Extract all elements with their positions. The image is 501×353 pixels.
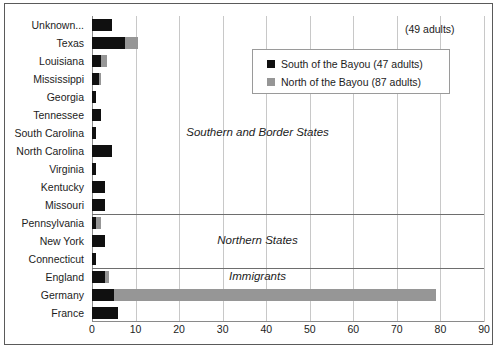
bar-segment-north[interactable] bbox=[96, 217, 100, 229]
legend-label: North of the Bayou (87 adults) bbox=[281, 77, 421, 88]
bar-segment-south[interactable] bbox=[92, 19, 112, 31]
x-tick-label: 30 bbox=[217, 324, 229, 335]
x-tick-label: 20 bbox=[173, 324, 185, 335]
x-tick-label: 90 bbox=[478, 324, 490, 335]
category-label: England bbox=[45, 272, 84, 283]
bar-segment-south[interactable] bbox=[92, 91, 96, 103]
bar-stack[interactable] bbox=[92, 271, 109, 283]
bar-stack[interactable] bbox=[92, 73, 101, 85]
category-label: Unknown... bbox=[31, 20, 84, 31]
section-label: Immigrants bbox=[229, 271, 286, 283]
legend-entry[interactable]: South of the Bayou (47 adults) bbox=[267, 56, 449, 72]
category-label: Texas bbox=[57, 38, 84, 49]
bar-stack[interactable] bbox=[92, 163, 96, 175]
bar-stack[interactable] bbox=[92, 307, 118, 319]
bar-stack[interactable] bbox=[92, 55, 107, 67]
x-tick-label: 60 bbox=[347, 324, 359, 335]
bar-row bbox=[92, 304, 484, 322]
bar-row bbox=[92, 160, 484, 178]
bar-segment-north[interactable] bbox=[101, 55, 108, 67]
bar-segment-south[interactable] bbox=[92, 55, 101, 67]
category-label: Louisiana bbox=[39, 56, 84, 67]
x-tick-label: 40 bbox=[260, 324, 272, 335]
bar-row bbox=[92, 214, 484, 232]
bar-stack[interactable] bbox=[92, 37, 138, 49]
category-label: Pennsylvania bbox=[22, 218, 84, 229]
bar-segment-south[interactable] bbox=[92, 109, 101, 121]
bar-stack[interactable] bbox=[92, 289, 436, 301]
bar-row bbox=[92, 142, 484, 160]
section-label: Southern and Border States bbox=[186, 127, 329, 139]
category-label: Mississippi bbox=[33, 74, 84, 85]
bar-segment-south[interactable] bbox=[92, 127, 96, 139]
x-tick-label: 70 bbox=[391, 324, 403, 335]
bar-stack[interactable] bbox=[92, 253, 96, 265]
bar-row bbox=[92, 178, 484, 196]
x-tick-label: 50 bbox=[304, 324, 316, 335]
bar-stack[interactable] bbox=[92, 127, 96, 139]
x-tick-label: 0 bbox=[89, 324, 95, 335]
bar-segment-south[interactable] bbox=[92, 307, 118, 319]
chart-legend: South of the Bayou (47 adults)North of t… bbox=[252, 49, 450, 94]
bar-segment-south[interactable] bbox=[92, 145, 112, 157]
x-tick-label: 10 bbox=[130, 324, 142, 335]
bar-segment-north[interactable] bbox=[125, 37, 138, 49]
value-axis-tick-labels: 0102030405060708090 bbox=[92, 324, 484, 342]
legend-swatch bbox=[267, 78, 275, 86]
category-label: Virginia bbox=[49, 164, 84, 175]
category-label: Germany bbox=[41, 290, 84, 301]
category-label: Georgia bbox=[47, 92, 84, 103]
category-label: Kentucky bbox=[41, 182, 84, 193]
bar-segment-south[interactable] bbox=[92, 37, 125, 49]
gridline bbox=[484, 16, 485, 322]
bar-row bbox=[92, 250, 484, 268]
bar-row bbox=[92, 286, 484, 304]
bar-segment-south[interactable] bbox=[92, 235, 105, 247]
bar-stack[interactable] bbox=[92, 199, 105, 211]
bar-segment-south[interactable] bbox=[92, 181, 105, 193]
bar-segment-north[interactable] bbox=[114, 289, 436, 301]
bar-stack[interactable] bbox=[92, 181, 105, 193]
category-label: South Carolina bbox=[15, 128, 84, 139]
category-label: North Carolina bbox=[16, 146, 84, 157]
bar-segment-south[interactable] bbox=[92, 289, 114, 301]
bar-segment-south[interactable] bbox=[92, 199, 105, 211]
corner-note: (49 adults) bbox=[405, 24, 455, 35]
bar-stack[interactable] bbox=[92, 235, 105, 247]
category-label: New York bbox=[40, 236, 84, 247]
legend-swatch bbox=[267, 60, 275, 68]
bar-stack[interactable] bbox=[92, 145, 112, 157]
legend-entry[interactable]: North of the Bayou (87 adults) bbox=[267, 74, 449, 90]
bar-row bbox=[92, 106, 484, 124]
bar-segment-south[interactable] bbox=[92, 253, 96, 265]
bar-segment-south[interactable] bbox=[92, 271, 105, 283]
bar-segment-south[interactable] bbox=[92, 163, 96, 175]
category-axis-labels: Unknown...TexasLouisianaMississippiGeorg… bbox=[5, 16, 88, 322]
legend-label: South of the Bayou (47 adults) bbox=[281, 59, 423, 70]
bar-segment-north[interactable] bbox=[99, 73, 101, 85]
bar-stack[interactable] bbox=[92, 91, 96, 103]
category-label: Missouri bbox=[45, 200, 84, 211]
section-label: Northern States bbox=[217, 235, 298, 247]
bar-row bbox=[92, 268, 484, 286]
chart-frame: Unknown...TexasLouisianaMississippiGeorg… bbox=[4, 3, 493, 345]
category-label: France bbox=[51, 308, 84, 319]
category-label: Tennessee bbox=[33, 110, 84, 121]
bar-stack[interactable] bbox=[92, 217, 101, 229]
bar-stack[interactable] bbox=[92, 19, 112, 31]
x-tick-label: 80 bbox=[435, 324, 447, 335]
bar-segment-north[interactable] bbox=[105, 271, 109, 283]
bar-row bbox=[92, 196, 484, 214]
bar-stack[interactable] bbox=[92, 109, 101, 121]
category-label: Connecticut bbox=[29, 254, 84, 265]
